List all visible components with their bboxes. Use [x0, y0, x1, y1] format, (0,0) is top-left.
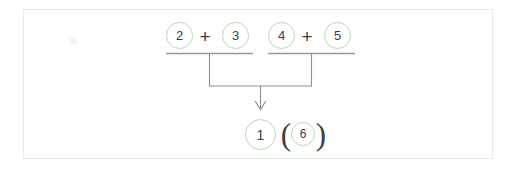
- operand-circle-5: 5: [324, 22, 351, 49]
- result-secondary-value: 6: [300, 127, 307, 141]
- operand-value: 3: [232, 28, 239, 43]
- plus-operator-left: +: [195, 26, 215, 46]
- operand-value: 2: [176, 28, 183, 43]
- result-circle-6: 6: [291, 122, 315, 146]
- operand-value: 5: [334, 28, 341, 43]
- result-circle-1: 1: [245, 119, 276, 150]
- result-value: 1: [257, 127, 265, 143]
- diagram-canvas: 2 + 3 4 + 5 1 ( 6 ): [0, 0, 518, 173]
- close-paren: ): [315, 118, 327, 151]
- operand-circle-2: 2: [166, 22, 193, 49]
- plus-operator-right: +: [297, 26, 317, 46]
- operand-circle-3: 3: [222, 22, 249, 49]
- operand-value: 4: [278, 28, 285, 43]
- operand-circle-4: 4: [268, 22, 295, 49]
